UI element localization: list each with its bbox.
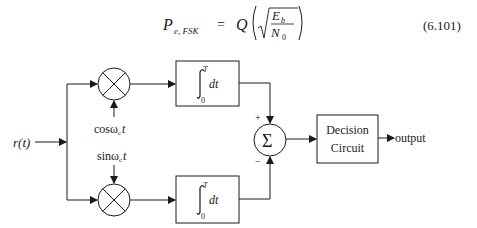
sigma-icon: Σ	[262, 131, 272, 151]
decision-label-line1: Decision	[326, 123, 369, 137]
eq-number: (6.101)	[423, 18, 461, 33]
svg-text:cosωct: cosωct	[94, 122, 126, 137]
sin-carrier-label: sinωct	[97, 149, 127, 164]
plus-sign: +	[255, 112, 261, 123]
cos-carrier-label: cosωct	[94, 122, 126, 137]
equation: P e, FSK = Q E b N 0 (6.101)	[162, 6, 461, 42]
upper-integral-icon: T 0 dt	[197, 65, 219, 105]
svg-text:T: T	[203, 65, 208, 74]
input-label: r(t)	[13, 135, 30, 150]
lower-integral-icon: T 0 dt	[197, 181, 219, 221]
svg-text:sinωct: sinωct	[97, 149, 127, 164]
fsk-receiver-figure: P e, FSK = Q E b N 0 (6.101)	[0, 0, 477, 228]
eq-lhs-symbol: P	[162, 16, 173, 33]
eq-q-function: Q	[236, 16, 248, 33]
svg-text:0: 0	[201, 96, 205, 105]
output-label: output	[395, 131, 426, 145]
svg-text:0: 0	[201, 212, 205, 221]
eq-numerator: E	[271, 8, 280, 23]
minus-sign: −	[255, 156, 261, 167]
eq-left-paren	[253, 6, 256, 40]
svg-text:dt: dt	[209, 77, 219, 91]
eq-right-paren	[299, 6, 302, 40]
lower-integrator-box	[176, 176, 239, 223]
upper-multiplier-icon	[98, 68, 130, 100]
decision-label-line2: Circuit	[331, 141, 365, 155]
eq-denominator: N	[270, 25, 281, 40]
eq-lhs-subscript: e, FSK	[174, 26, 199, 36]
eq-equals: =	[217, 17, 225, 32]
svg-text:T: T	[203, 181, 208, 190]
svg-text:dt: dt	[209, 193, 219, 207]
eq-denominator-subscript: 0	[282, 33, 286, 42]
lower-multiplier-icon	[98, 184, 130, 216]
upper-integrator-box	[176, 61, 239, 106]
